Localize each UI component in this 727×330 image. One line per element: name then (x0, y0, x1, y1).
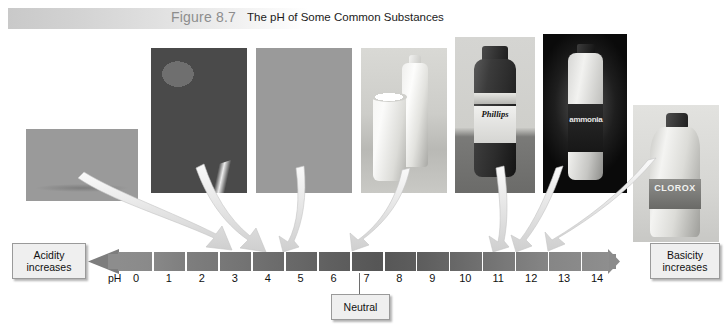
ph-tick-label: 6 (325, 272, 343, 284)
ph-tick-label: 5 (292, 272, 310, 284)
arrow-strawberries-to-ph (196, 164, 266, 252)
acidity-line1: Acidity (34, 249, 65, 261)
ph-tick-mark (251, 252, 253, 271)
ph-tick-label: 3 (226, 272, 244, 284)
ph-tick-label: 1 (160, 272, 178, 284)
ph-tick-mark (449, 252, 451, 271)
ph-tick-mark (383, 252, 385, 271)
arrow-phillips-to-ph (489, 166, 509, 252)
callout-neutral: Neutral (331, 294, 390, 320)
ph-tick-label: 13 (555, 272, 573, 284)
ph-tick-mark (284, 252, 286, 271)
arrow-tomatoes-to-ph (279, 166, 305, 252)
ph-tick-mark (152, 252, 154, 271)
ph-tick-label: 9 (423, 272, 441, 284)
ph-tick-label: 0 (127, 272, 145, 284)
ph-tick-mark (482, 252, 484, 271)
ph-tick-label: 10 (456, 272, 474, 284)
ph-tick-label: 8 (390, 272, 408, 284)
ph-tick-label: 12 (522, 272, 540, 284)
ph-tick-mark (350, 252, 352, 271)
acidity-line2: increases (27, 261, 72, 273)
callout-basicity-increases: Basicity increases (650, 243, 720, 279)
neutral-label: Neutral (344, 301, 378, 313)
ph-tick-label: 11 (489, 272, 507, 284)
arrow-milk-to-ph (350, 168, 410, 251)
ph-tick-label: 4 (259, 272, 277, 284)
ph-tick-mark (218, 252, 220, 271)
ph-tick-mark (185, 252, 187, 271)
ph-tick-mark (416, 252, 418, 271)
ph-tick-label: 2 (193, 272, 211, 284)
basicity-line2: increases (663, 261, 708, 273)
figure-panel: Figure 8.7 The pH of Some Common Substan… (0, 0, 727, 330)
basicity-line1: Basicity (667, 249, 703, 261)
neutral-connector-line (359, 273, 360, 295)
ph-tick-mark (515, 252, 517, 271)
ph-axis-label: pH (108, 272, 121, 284)
callout-acidity-increases: Acidity increases (12, 243, 86, 279)
ph-tick-mark (548, 252, 550, 271)
ph-tick-label: 14 (588, 272, 606, 284)
ph-tick-mark (317, 252, 319, 271)
ph-scale-bar (118, 252, 609, 271)
ph-tick-mark (581, 252, 583, 271)
arrow-clorox-to-ph (545, 158, 656, 251)
